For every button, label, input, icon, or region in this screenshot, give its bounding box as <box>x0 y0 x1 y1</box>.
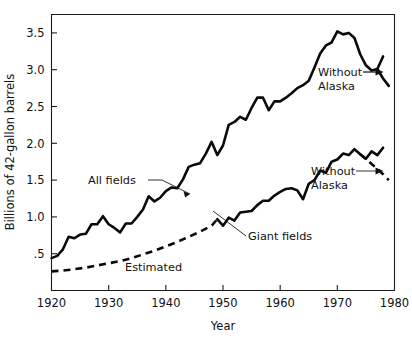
annotation-label-without-alaska-lower-line2: Alaska <box>311 179 348 192</box>
y-tick-label: 1.5 <box>26 173 44 187</box>
x-tick-label: 1920 <box>37 296 66 310</box>
y-tick-label: .5 <box>34 247 45 261</box>
oil-production-line-chart: 1920193019401950196019701980 .51.01.52.0… <box>0 0 412 339</box>
y-tick-label: 3.0 <box>26 63 44 77</box>
x-tick-label: 1930 <box>94 296 123 310</box>
x-tick-label: 1980 <box>380 296 409 310</box>
annotation-label-without-alaska-lower-line1: Without <box>311 165 356 178</box>
x-tick-label: 1950 <box>208 296 237 310</box>
annotation-label-without-alaska-upper-line2: Alaska <box>318 80 355 93</box>
annotation-estimated: Estimated <box>125 261 182 274</box>
y-axis-title: Billions of 42-gallon barrels <box>3 74 17 231</box>
y-tick-label: 3.5 <box>26 26 44 40</box>
x-axis-title: Year <box>210 319 236 333</box>
chart-figure: 1920193019401950196019701980 .51.01.52.0… <box>0 0 412 339</box>
y-tick-label: 2.0 <box>26 137 44 151</box>
annotation-label-all-fields: All fields <box>88 174 136 187</box>
x-tick-label: 1960 <box>266 296 295 310</box>
y-tick-label: 1.0 <box>26 210 44 224</box>
annotation-label-estimated: Estimated <box>125 261 182 274</box>
x-tick-label: 1940 <box>151 296 180 310</box>
annotation-label-giant-fields: Giant fields <box>248 230 312 243</box>
x-tick-label: 1970 <box>323 296 352 310</box>
annotation-label-without-alaska-upper-line1: Without <box>318 66 363 79</box>
y-tick-label: 2.5 <box>26 100 44 114</box>
